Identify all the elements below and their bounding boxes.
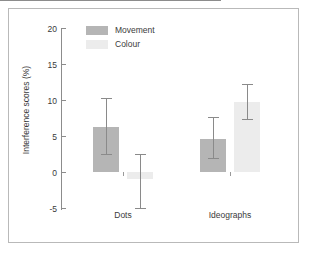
y-tick-20 bbox=[61, 28, 66, 29]
legend-item-colour: Colour bbox=[86, 37, 155, 51]
x-axis-label-dots: Dots bbox=[78, 211, 168, 220]
chart-legend: Movement Colour bbox=[86, 23, 155, 51]
errorbar-dots-movement-cap-upper bbox=[101, 98, 112, 99]
y-tick-label-10: 10 bbox=[17, 97, 57, 106]
y-tick-label-minus5: -5 bbox=[17, 205, 57, 214]
y-tick-10 bbox=[61, 100, 66, 101]
errorbar-dots-movement-cap-lower bbox=[101, 154, 112, 155]
errorbar-ideographs-colour-cap-lower bbox=[242, 119, 253, 120]
y-tick-label-5: 5 bbox=[17, 133, 57, 142]
y-tick-label-15: 15 bbox=[17, 61, 57, 70]
x-axis-label-ideographs: Ideographs bbox=[185, 211, 275, 220]
errorbar-ideographs-movement-stem bbox=[213, 117, 214, 158]
errorbar-dots-colour-cap-upper bbox=[135, 154, 146, 155]
legend-swatch-movement-icon bbox=[86, 26, 108, 35]
errorbar-ideographs-movement-cap-upper bbox=[208, 117, 219, 118]
plot-area: Interference scores (%) 20 15 10 5 0 -5 … bbox=[0, 0, 309, 253]
legend-label-movement: Movement bbox=[115, 26, 155, 35]
errorbar-ideographs-colour-cap-upper bbox=[242, 84, 253, 85]
x-tick-ideographs bbox=[230, 172, 231, 176]
y-tick-label-0: 0 bbox=[17, 169, 57, 178]
y-axis-line bbox=[61, 28, 62, 210]
legend-swatch-colour-icon bbox=[86, 40, 108, 49]
errorbar-ideographs-movement-cap-lower bbox=[208, 158, 219, 159]
y-tick-label-20: 20 bbox=[17, 25, 57, 34]
y-tick-5 bbox=[61, 136, 66, 137]
errorbar-dots-movement-stem bbox=[106, 98, 107, 154]
y-tick-0 bbox=[61, 172, 66, 173]
figure-container: Interference scores (%) 20 15 10 5 0 -5 … bbox=[0, 0, 309, 253]
errorbar-dots-colour-cap-lower bbox=[135, 208, 146, 209]
errorbar-dots-colour-stem bbox=[140, 154, 141, 208]
y-tick-15 bbox=[61, 64, 66, 65]
y-tick-minus5 bbox=[61, 208, 66, 209]
errorbar-ideographs-colour-stem bbox=[247, 84, 248, 119]
x-tick-dots bbox=[123, 172, 124, 176]
zero-baseline bbox=[0, 0, 221, 1]
legend-item-movement: Movement bbox=[86, 23, 155, 37]
legend-label-colour: Colour bbox=[115, 40, 140, 49]
